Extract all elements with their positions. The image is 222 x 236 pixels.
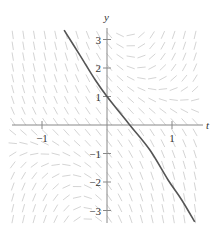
slope-segment [127, 56, 135, 57]
slope-segment [64, 107, 68, 114]
slope-segment [183, 172, 185, 180]
slope-segment [96, 107, 101, 114]
slope-segment [172, 31, 175, 39]
slope-segment [151, 161, 154, 169]
slope-segment [118, 204, 122, 212]
slope-segment [96, 162, 102, 168]
slope-segment [53, 194, 58, 201]
slope-segment [118, 194, 122, 202]
tick-label: 1 [169, 132, 175, 144]
slope-segment [194, 193, 195, 201]
slope-segment [53, 118, 58, 125]
slope-segment [193, 139, 196, 147]
slope-segment [31, 162, 38, 167]
slope-segment [11, 172, 15, 180]
slope-segment [181, 109, 188, 113]
slope-segment [161, 150, 164, 158]
slope-segment [32, 172, 37, 179]
slope-segment [173, 193, 175, 201]
slope-segment [64, 216, 69, 223]
slope-segment [86, 42, 89, 50]
slope-segment [194, 172, 196, 180]
slope-segment [62, 175, 70, 176]
slope-segment [85, 140, 91, 146]
slope-segment [194, 182, 196, 190]
slope-segment [139, 118, 144, 125]
slope-segment [34, 31, 35, 39]
slope-segment [138, 98, 145, 103]
slope-segment [75, 85, 79, 93]
axes: −11 321−1−2−3 t y [12, 11, 210, 223]
slope-segment [22, 107, 26, 115]
slope-field-chart: −11 321−1−2−3 t y [0, 0, 222, 236]
slope-segment [137, 78, 145, 79]
tick-label: 1 [96, 91, 102, 103]
slope-segment [137, 67, 145, 68]
slope-segment [194, 31, 196, 39]
slope-segment [54, 96, 57, 104]
slope-segment [194, 204, 195, 212]
slope-segment [172, 42, 175, 50]
slope-segment [23, 52, 25, 60]
solution-curve [64, 30, 195, 222]
slope-segment [75, 74, 78, 82]
slope-segment [20, 130, 26, 136]
slope-segment [194, 150, 197, 158]
slope-segment [150, 43, 155, 50]
slope-segment [19, 142, 27, 144]
slope-segment [117, 97, 123, 103]
slope-segment [73, 206, 81, 209]
slope-segment [151, 183, 153, 191]
slope-segment [173, 215, 174, 223]
slope-segment [12, 215, 14, 223]
slope-segment [107, 161, 112, 168]
slope-segment [85, 162, 92, 167]
slope-segment [63, 152, 71, 156]
slope-segment [181, 87, 188, 92]
slope-segment [194, 53, 197, 61]
slope-segment [140, 172, 143, 180]
slope-segment [86, 75, 90, 82]
slope-segment [140, 161, 143, 169]
slope-segment [23, 42, 24, 50]
slope-segment [33, 42, 35, 50]
slope-segment [183, 139, 186, 147]
slope-segment [12, 63, 14, 71]
slope-segment [84, 196, 92, 199]
slope-segment [128, 97, 134, 103]
slope-segment [65, 63, 68, 71]
slope-segment [107, 140, 112, 147]
slope-segment [55, 31, 57, 39]
slope-segment [96, 75, 100, 82]
slope-segment [74, 217, 81, 222]
slope-segment [86, 107, 91, 114]
slope-segment [193, 129, 197, 136]
slope-segment [138, 44, 145, 48]
slope-segment [127, 66, 135, 69]
slope-segment [127, 34, 135, 36]
slope-segment [160, 65, 166, 71]
slope-segment [170, 75, 176, 81]
slope-segment [151, 204, 153, 212]
tick-label: −3 [89, 205, 101, 217]
slope-segment [107, 129, 112, 136]
slope-segment [149, 54, 155, 60]
slope-segment [63, 185, 71, 189]
slope-segment [172, 53, 176, 60]
slope-segment [21, 172, 25, 179]
slope-segment [183, 161, 185, 169]
slope-segment [53, 129, 59, 135]
slope-segment [183, 31, 185, 39]
y-axis-label: y [103, 11, 109, 23]
slope-segment [182, 75, 187, 82]
slope-segment [160, 118, 165, 124]
tick-label: −1 [89, 148, 101, 160]
slope-segment [117, 75, 123, 81]
slope-segment [191, 99, 199, 101]
slope-segment [191, 109, 199, 112]
slope-segment [54, 63, 56, 71]
slope-segment [139, 129, 144, 136]
slope-segment [12, 31, 13, 39]
tick-label: 2 [96, 62, 102, 74]
slope-segment [42, 173, 48, 179]
